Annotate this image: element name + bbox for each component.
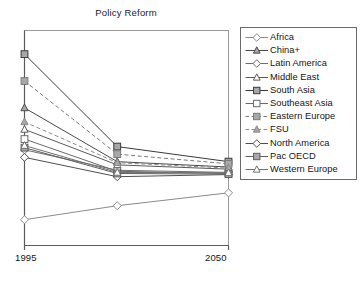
- legend-label: Southeast Asia: [270, 97, 333, 110]
- series-line: [25, 108, 229, 167]
- legend-marker-triangle-icon: [244, 71, 270, 84]
- legend-marker-square-icon: [244, 150, 270, 163]
- legend-item-latin-america[interactable]: Latin America: [244, 57, 354, 70]
- legend-item-china-[interactable]: China+: [244, 44, 354, 57]
- data-point-marker: [21, 125, 28, 132]
- chart-container: Policy Reform 1995 2050 AfricaChina+Lati…: [0, 0, 361, 289]
- series-africa: [20, 189, 232, 224]
- legend-marker-glyph: [254, 87, 260, 93]
- series-south-asia: [21, 51, 232, 165]
- legend-marker-glyph: [253, 139, 261, 147]
- series-china-: [21, 104, 232, 170]
- x-axis-tick-label-start: 1995: [15, 252, 37, 263]
- legend-marker-triangle-icon: [244, 44, 270, 57]
- legend-item-pac-oecd[interactable]: Pac OECD: [244, 150, 354, 163]
- legend-marker-triangle-icon: [244, 163, 270, 176]
- legend-label: Africa: [270, 31, 294, 44]
- legend-label: Latin America: [270, 57, 327, 70]
- series-line: [25, 54, 229, 161]
- legend-marker-diamond-icon: [244, 137, 270, 150]
- data-point-marker: [21, 104, 28, 111]
- legend-item-north-america[interactable]: North America: [244, 137, 354, 150]
- series-line: [25, 81, 229, 164]
- legend-label: China+: [270, 44, 300, 57]
- legend-marker-glyph: [253, 166, 260, 172]
- legend-item-southeast-asia[interactable]: Southeast Asia: [244, 97, 354, 110]
- data-point-marker: [113, 202, 121, 210]
- legend-marker-glyph: [253, 60, 261, 68]
- data-point-marker: [21, 118, 28, 125]
- legend-label: Eastern Europe: [270, 110, 335, 123]
- data-point-marker: [20, 153, 28, 161]
- legend-marker-glyph: [253, 47, 260, 53]
- data-point-marker: [20, 216, 28, 224]
- data-point-marker: [224, 189, 232, 197]
- legend-marker-glyph: [253, 126, 260, 132]
- data-point-marker: [114, 143, 121, 150]
- legend-label: North America: [270, 137, 330, 150]
- legend-item-fsu[interactable]: FSU: [244, 123, 354, 136]
- legend-item-eastern-europe[interactable]: Eastern Europe: [244, 110, 354, 123]
- data-point-marker: [114, 151, 121, 158]
- legend-marker-square-icon: [244, 84, 270, 97]
- legend-item-africa[interactable]: Africa: [244, 31, 354, 44]
- legend-marker-diamond-icon: [244, 57, 270, 70]
- legend-item-western-europe[interactable]: Western Europe: [244, 163, 354, 176]
- plot-frame: [25, 31, 229, 246]
- legend-label: Middle East: [270, 71, 319, 84]
- data-point-marker: [21, 51, 28, 58]
- legend-marker-glyph: [254, 100, 260, 106]
- legend-label: FSU: [270, 123, 289, 136]
- legend-label: South Asia: [270, 84, 315, 97]
- legend-marker-glyph: [253, 34, 261, 42]
- series-line: [25, 193, 229, 220]
- legend-marker-diamond-icon: [244, 31, 270, 44]
- legend-marker-square-icon: [244, 110, 270, 123]
- legend-marker-glyph: [254, 114, 260, 120]
- legend-item-middle-east[interactable]: Middle East: [244, 71, 354, 84]
- legend-marker-triangle-icon: [244, 123, 270, 136]
- legend-marker-glyph: [253, 73, 260, 79]
- legend-label: Western Europe: [270, 163, 338, 176]
- data-point-marker: [21, 78, 28, 85]
- chart-legend: AfricaChina+Latin AmericaMiddle EastSout…: [240, 27, 357, 180]
- legend-item-south-asia[interactable]: South Asia: [244, 84, 354, 97]
- legend-marker-glyph: [254, 153, 260, 159]
- x-axis-tick-label-end: 2050: [205, 252, 227, 263]
- legend-label: Pac OECD: [270, 150, 316, 163]
- legend-marker-square-icon: [244, 97, 270, 110]
